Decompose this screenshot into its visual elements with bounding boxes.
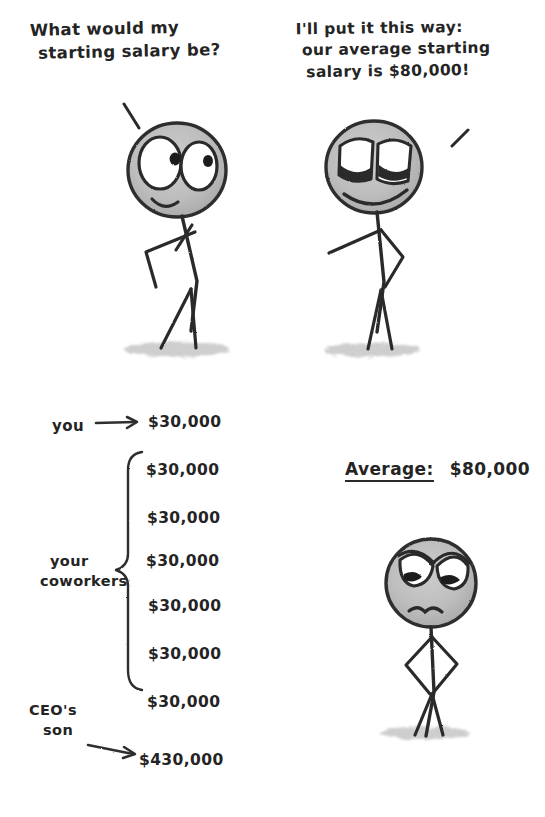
comic-artwork	[0, 0, 545, 817]
speech-right-line-2: our average starting	[296, 38, 491, 62]
salary-row-ceos-son: $430,000	[139, 750, 224, 771]
label-coworkers-line-1: your	[40, 551, 128, 571]
salary-row-coworker-1: $30,000	[146, 460, 219, 481]
label-you: you	[52, 416, 84, 437]
ground-shadow	[124, 342, 230, 357]
arm-left-hip	[406, 637, 432, 694]
arm-right-hip	[432, 637, 457, 693]
label-ceos-son: CEO's son	[29, 700, 77, 740]
pupil-right	[203, 155, 213, 167]
salary-row-coworker-6: $30,000	[147, 692, 220, 713]
label-ceo-line-1: CEO's	[29, 700, 77, 720]
leg-left	[161, 289, 191, 348]
speech-pointer-right	[452, 130, 468, 146]
label-your-coworkers: your coworkers	[40, 551, 128, 591]
speech-bubble-left: What would my starting salary be?	[26, 16, 221, 66]
ground-shadow	[324, 343, 420, 357]
leg-right	[381, 290, 392, 349]
speech-left-line-2: starting salary be?	[26, 39, 221, 66]
speech-right-line-1: I'll put it this way:	[296, 17, 491, 41]
eye-right	[181, 142, 217, 190]
salary-row-you: $30,000	[148, 412, 221, 433]
salary-row-coworker-4: $30,000	[148, 596, 221, 617]
salary-row-coworker-5: $30,000	[148, 644, 221, 665]
pupil-left	[170, 153, 181, 166]
label-coworkers-line-2: coworkers	[40, 571, 128, 591]
figure-hopeful-applicant	[124, 104, 230, 357]
salary-row-coworker-2: $30,000	[147, 508, 220, 529]
speech-pointer-left	[124, 104, 139, 128]
figure-annoyed-applicant	[380, 539, 476, 740]
average-value: $80,000	[450, 459, 530, 479]
speech-right-line-3: salary is $80,000!	[296, 59, 491, 83]
salary-row-coworker-3: $30,000	[146, 551, 219, 572]
arrow-you	[96, 422, 135, 423]
label-ceo-line-2: son	[29, 720, 77, 740]
speech-bubble-right: I'll put it this way: our average starti…	[296, 17, 491, 84]
eye-right	[437, 557, 468, 589]
average-label: Average:	[345, 459, 434, 482]
arm-left	[329, 230, 381, 253]
figure-smug-recruiter	[324, 121, 468, 357]
average-readout: Average:$80,000	[345, 458, 530, 481]
